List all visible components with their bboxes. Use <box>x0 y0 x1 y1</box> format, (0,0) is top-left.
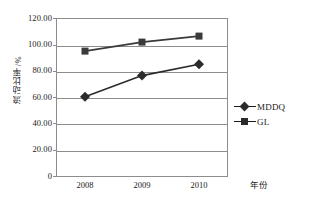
legend-label-mddq: MDDQ <box>257 102 285 112</box>
line-chart: 120.00 100.00 80.00 60.00 40.00 20.00 0 … <box>0 0 322 212</box>
x-tick-label-2008: 2008 <box>65 180 105 190</box>
marker-mddq-2008 <box>80 92 90 102</box>
marker-gl-2008 <box>82 48 89 55</box>
marker-mddq-2010 <box>194 59 204 69</box>
marker-gl-2010 <box>196 33 203 40</box>
y-tick-label-120: 120.00 <box>28 14 52 23</box>
chart-legend: MDDQ GL <box>234 99 285 129</box>
y-tick-label-80: 80.00 <box>32 66 52 75</box>
legend-item-mddq[interactable]: MDDQ <box>234 99 285 114</box>
y-tick-label-100: 100.00 <box>28 40 52 49</box>
x-axis-title: 年份 <box>250 180 268 190</box>
marker-gl-2009 <box>139 39 146 46</box>
y-tick-label-0: 0 <box>48 172 52 181</box>
x-tick-label-2010: 2010 <box>179 180 219 190</box>
y-tick-label-20: 20.00 <box>32 145 52 154</box>
y-tick-label-40: 40.00 <box>32 119 52 128</box>
marker-mddq-2009 <box>137 71 147 81</box>
square-marker-icon <box>234 116 256 127</box>
y-tick-label-60: 60.00 <box>32 93 52 102</box>
diamond-marker-icon <box>234 101 256 112</box>
legend-label-gl: GL <box>257 117 269 127</box>
x-tick-label-2009: 2009 <box>122 180 162 190</box>
legend-item-gl[interactable]: GL <box>234 114 285 129</box>
series-layer <box>56 18 228 177</box>
y-axis-title: 流动比率/% <box>13 56 27 104</box>
